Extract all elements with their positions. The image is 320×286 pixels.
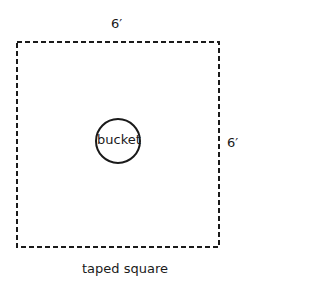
bucket-label: bucket	[97, 133, 140, 146]
top-dimension-label: 6′	[111, 17, 122, 30]
caption-label: taped square	[82, 262, 168, 275]
right-dimension-label: 6′	[227, 136, 238, 149]
